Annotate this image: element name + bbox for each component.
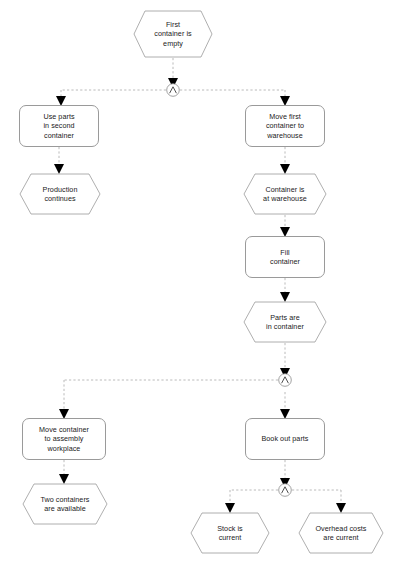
and-gate-icon xyxy=(166,83,180,97)
node-label: Container is at warehouse xyxy=(243,185,327,204)
node-label: Move first container to warehouse xyxy=(246,112,324,140)
and-connector-split-middle[interactable] xyxy=(278,373,292,387)
and-gate-icon xyxy=(278,373,292,387)
node-label: Production continues xyxy=(19,185,101,204)
node-label: Stock is current xyxy=(190,524,270,543)
event-parts-in-container[interactable]: Parts are in container xyxy=(243,301,327,343)
node-label: Book out parts xyxy=(246,434,324,443)
node-label: Move container to assembly workplace xyxy=(23,425,105,453)
function-move-container-to-assembly-workplace[interactable]: Move container to assembly workplace xyxy=(22,418,106,460)
node-label: Use parts in second container xyxy=(20,112,98,140)
function-fill-container[interactable]: Fill container xyxy=(245,236,325,278)
node-label: Fill container xyxy=(246,248,324,267)
event-overhead-costs-current[interactable]: Overhead costs are current xyxy=(298,512,384,554)
and-gate-icon xyxy=(278,483,292,497)
and-connector-split-bottom[interactable] xyxy=(278,483,292,497)
node-label: Two containers are available xyxy=(22,495,108,514)
node-label: Parts are in container xyxy=(243,313,327,332)
event-first-container-empty[interactable]: First container is empty xyxy=(133,10,213,58)
function-move-first-container-to-warehouse[interactable]: Move first container to warehouse xyxy=(245,105,325,147)
and-connector-split-top[interactable] xyxy=(166,83,180,97)
event-production-continues[interactable]: Production continues xyxy=(19,173,101,215)
event-two-containers-available[interactable]: Two containers are available xyxy=(22,483,108,525)
node-label: First container is empty xyxy=(133,20,213,48)
event-container-at-warehouse[interactable]: Container is at warehouse xyxy=(243,173,327,215)
function-use-parts-second-container[interactable]: Use parts in second container xyxy=(19,105,99,147)
event-stock-is-current[interactable]: Stock is current xyxy=(190,512,270,554)
function-book-out-parts[interactable]: Book out parts xyxy=(245,418,325,460)
node-label: Overhead costs are current xyxy=(298,524,384,543)
